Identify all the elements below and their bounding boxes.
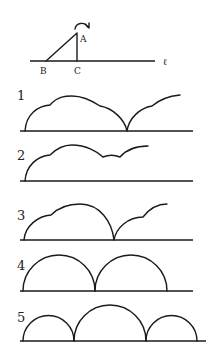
arc-3: [146, 316, 197, 342]
diagram: A B C ℓ 1 2 3 4 5: [0, 0, 218, 362]
arc-2: [74, 305, 146, 341]
arrowhead-icon: [85, 23, 89, 28]
option-2[interactable]: 2: [17, 145, 193, 181]
option-3[interactable]: 3: [17, 204, 193, 240]
option-number: 1: [17, 88, 25, 103]
arc-1: [23, 255, 95, 291]
curve: [25, 145, 148, 181]
setup-figure: A B C ℓ: [30, 23, 167, 76]
option-number: 5: [17, 310, 25, 325]
curve: [24, 204, 167, 240]
label-b: B: [40, 66, 47, 76]
label-c: C: [74, 66, 81, 76]
option-5[interactable]: 5: [17, 305, 206, 341]
arc-2: [95, 255, 167, 291]
option-1[interactable]: 1: [17, 88, 193, 131]
option-4[interactable]: 4: [17, 255, 193, 291]
curve: [25, 95, 180, 131]
option-number: 2: [17, 148, 25, 163]
label-a: A: [79, 34, 87, 44]
arc-1: [23, 316, 74, 342]
triangle-abc: [46, 33, 77, 61]
option-number: 4: [17, 258, 25, 273]
option-number: 3: [17, 208, 25, 223]
label-line: ℓ: [163, 57, 167, 67]
